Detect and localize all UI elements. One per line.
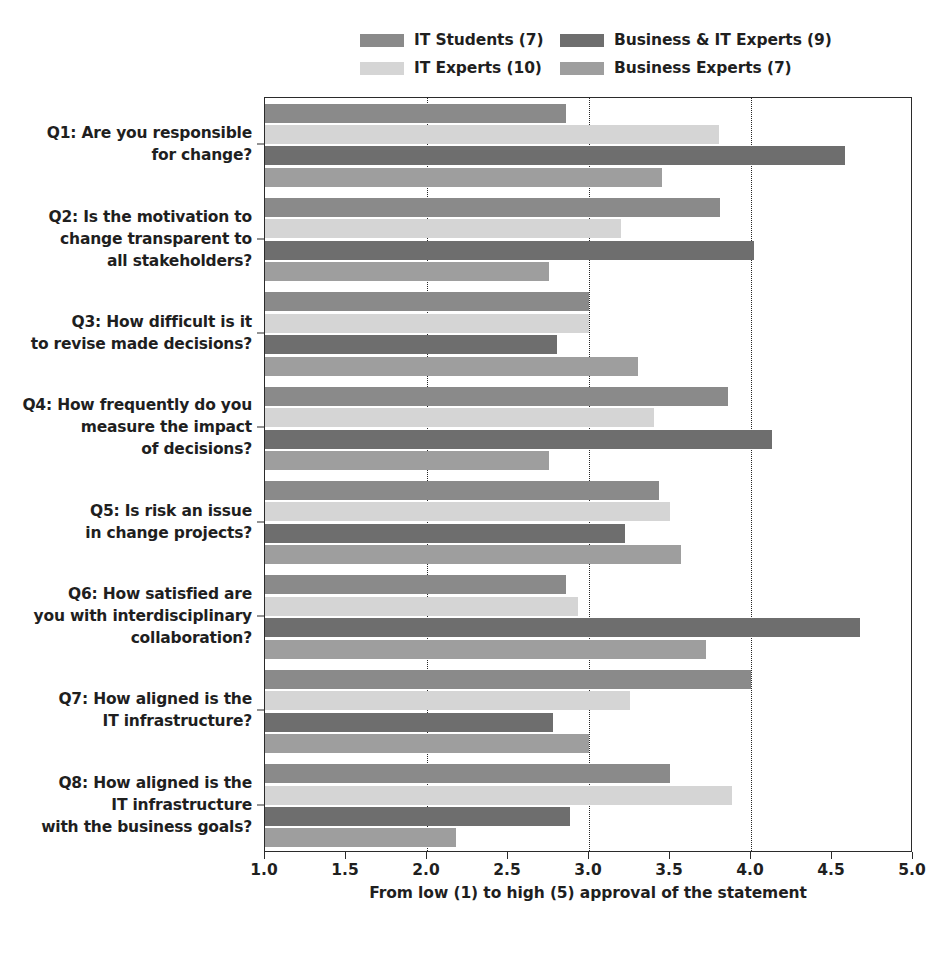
bar [265, 691, 630, 710]
y-axis-tick [257, 804, 264, 805]
bar [265, 524, 625, 543]
bar [265, 618, 860, 637]
y-axis-tick [257, 144, 264, 145]
x-axis-tick-label: 2.0 [396, 861, 456, 879]
bar [265, 104, 566, 123]
y-axis-tick [257, 332, 264, 333]
x-axis-tick-label: 1.0 [234, 861, 294, 879]
x-axis-tick-label: 4.0 [720, 861, 780, 879]
bar [265, 125, 719, 144]
bar [265, 241, 754, 260]
bar [265, 387, 728, 406]
category-label: Q7: How aligned is theIT infrastructure? [0, 688, 252, 732]
bar [265, 764, 670, 783]
legend-entry: IT Students (7) [360, 31, 560, 49]
legend-label: Business Experts (7) [614, 59, 792, 77]
plot-inner [265, 98, 911, 851]
y-axis-tick [257, 616, 264, 617]
plot-area [264, 97, 912, 852]
bar [265, 451, 549, 470]
legend-swatch [560, 34, 604, 47]
bar [265, 357, 638, 376]
category-label: Q5: Is risk an issuein change projects? [0, 500, 252, 544]
bar [265, 545, 681, 564]
bar [265, 734, 589, 753]
legend-entry: Business Experts (7) [560, 59, 840, 77]
bar [265, 670, 751, 689]
x-axis-tick [507, 852, 508, 859]
bar [265, 292, 589, 311]
bar [265, 262, 549, 281]
y-axis-tick [257, 521, 264, 522]
bar [265, 198, 720, 217]
legend-swatch [360, 34, 404, 47]
bar [265, 597, 578, 616]
bar-chart: IT Students (7)Business & IT Experts (9)… [0, 0, 949, 953]
legend-label: Business & IT Experts (9) [614, 31, 832, 49]
category-label: Q2: Is the motivation tochange transpare… [0, 206, 252, 272]
bar [265, 807, 570, 826]
bar [265, 786, 732, 805]
legend-entry: Business & IT Experts (9) [560, 31, 840, 49]
x-axis-tick-label: 1.5 [315, 861, 375, 879]
x-axis-tick [588, 852, 589, 859]
x-axis-tick [912, 852, 913, 859]
x-axis-tick [750, 852, 751, 859]
category-label: Q8: How aligned is theIT infrastructurew… [0, 772, 252, 838]
bar [265, 430, 772, 449]
x-axis-title: From low (1) to high (5) approval of the… [264, 884, 912, 902]
x-axis-tick [669, 852, 670, 859]
x-axis-tick-label: 3.5 [639, 861, 699, 879]
category-axis-labels: Q1: Are you responsiblefor change?Q2: Is… [0, 97, 264, 852]
x-axis-tick [345, 852, 346, 859]
legend-swatch [360, 62, 404, 75]
bar [265, 713, 553, 732]
chart-legend: IT Students (7)Business & IT Experts (9)… [360, 26, 840, 82]
category-label: Q3: How difficult is itto revise made de… [0, 311, 252, 355]
x-axis-tick [831, 852, 832, 859]
y-axis-tick [257, 427, 264, 428]
bar [265, 640, 706, 659]
category-label: Q4: How frequently do youmeasure the imp… [0, 394, 252, 460]
legend-label: IT Experts (10) [414, 59, 542, 77]
bar [265, 335, 557, 354]
legend-swatch [560, 62, 604, 75]
x-axis-tick [426, 852, 427, 859]
bar [265, 575, 566, 594]
bar [265, 481, 659, 500]
x-axis-tick-label: 2.5 [477, 861, 537, 879]
legend-entry: IT Experts (10) [360, 59, 560, 77]
x-axis-tick-label: 5.0 [882, 861, 942, 879]
bar [265, 828, 456, 847]
x-axis-tick-label: 4.5 [801, 861, 861, 879]
bar [265, 146, 845, 165]
legend-label: IT Students (7) [414, 31, 543, 49]
bar [265, 314, 589, 333]
x-axis-tick [264, 852, 265, 859]
category-label: Q1: Are you responsiblefor change? [0, 122, 252, 166]
y-axis-tick [257, 238, 264, 239]
bar [265, 502, 670, 521]
bar [265, 408, 654, 427]
bar [265, 168, 662, 187]
bar [265, 219, 621, 238]
gridline [751, 98, 752, 851]
category-label: Q6: How satisfied areyou with interdisci… [0, 583, 252, 649]
y-axis-tick [257, 710, 264, 711]
x-axis-tick-label: 3.0 [558, 861, 618, 879]
